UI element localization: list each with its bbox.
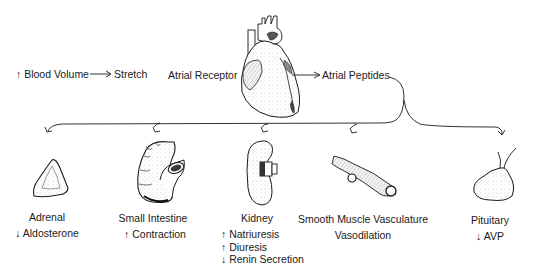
arrowhead-kidney [261, 124, 268, 132]
organ-label-adrenal: Adrenal [29, 211, 65, 223]
pituitary-gland-icon [474, 148, 516, 201]
small-intestine-icon [138, 142, 186, 203]
heart-icon [241, 16, 299, 117]
arrowhead-intestine [153, 123, 160, 132]
organ-label-pituitary: Pituitary [471, 214, 509, 226]
label-stretch: Stretch [114, 68, 147, 80]
effect-vasodilation: Vasodilation [335, 229, 391, 241]
organ-label-smooth-muscle: Smooth Muscle Vasculature [298, 213, 428, 225]
effect-kidney-natriuresis: ↑ Natriuresis [221, 228, 304, 241]
label-atrial-peptides: Atrial Peptides [322, 69, 390, 81]
arrow-heart-to-peptides [292, 72, 320, 78]
blood-vessel-icon [332, 156, 396, 196]
effect-adrenal-aldosterone: ↓ Aldosterone [15, 227, 79, 239]
organ-label-kidney: Kidney [241, 212, 273, 224]
effect-kidney-diuresis: ↑ Diuresis [221, 241, 304, 254]
kidney-icon [247, 141, 277, 205]
label-atrial-receptor: Atrial Receptor [168, 69, 237, 81]
atrial-peptide-diagram: ↑ Blood Volume Stretch Atrial Receptor A… [0, 0, 543, 273]
organ-label-small-intestine: Small Intestine [119, 212, 188, 224]
arrowheads [45, 123, 505, 135]
arrowhead-vessel [350, 124, 357, 133]
effect-intestine-contraction: ↑ Contraction [124, 228, 186, 240]
adrenal-gland-icon [34, 160, 69, 197]
arrow-blood-volume-to-stretch [90, 71, 111, 77]
kidney-effects-list: ↑ Natriuresis ↑ Diuresis ↓ Renin Secreti… [221, 228, 304, 266]
label-blood-volume: ↑ Blood Volume [16, 68, 89, 80]
effect-pituitary-avp: ↓ AVP [476, 230, 504, 242]
effect-kidney-renin: ↓ Renin Secretion [221, 253, 304, 266]
